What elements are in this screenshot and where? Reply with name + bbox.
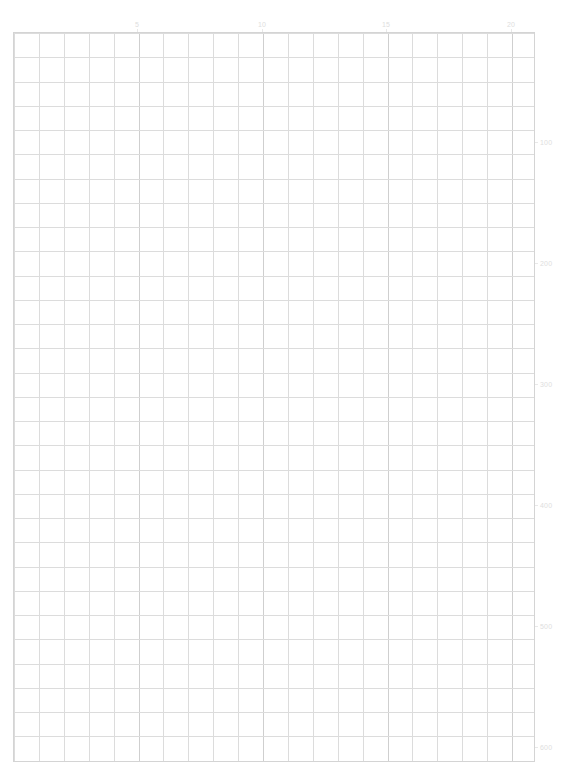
- x-axis-tick-mark: [137, 29, 138, 32]
- gridline-horizontal: [14, 57, 534, 58]
- gridline-horizontal: [14, 82, 534, 83]
- gridline-horizontal: [14, 421, 534, 422]
- y-axis-tick-label: 100: [540, 138, 552, 147]
- y-axis-tick-label: 600: [540, 743, 552, 752]
- gridline-horizontal: [14, 203, 534, 204]
- gridline-horizontal: [14, 494, 534, 495]
- gridline-horizontal: [14, 373, 534, 374]
- y-axis-tick-mark: [535, 747, 538, 748]
- gridline-horizontal: [14, 664, 534, 665]
- gridline-horizontal: [14, 130, 534, 131]
- gridline-horizontal: [14, 33, 534, 34]
- gridline-horizontal: [14, 397, 534, 398]
- y-axis-tick-label: 500: [540, 622, 552, 631]
- gridline-horizontal: [14, 227, 534, 228]
- gridline-horizontal: [14, 470, 534, 471]
- gridline-horizontal: [14, 518, 534, 519]
- gridline-horizontal: [14, 154, 534, 155]
- gridline-horizontal: [14, 445, 534, 446]
- y-axis-tick-label: 200: [540, 259, 552, 268]
- x-axis-tick-mark: [262, 29, 263, 32]
- gridline-horizontal: [14, 761, 534, 762]
- gridline-horizontal: [14, 639, 534, 640]
- gridline-horizontal: [14, 300, 534, 301]
- x-axis-tick-mark: [511, 29, 512, 32]
- gridline-horizontal: [14, 251, 534, 252]
- gridline-horizontal: [14, 106, 534, 107]
- plot-area: [13, 32, 535, 762]
- x-axis-tick-label: 20: [507, 20, 515, 29]
- gridline-horizontal: [14, 542, 534, 543]
- gridline-horizontal: [14, 179, 534, 180]
- gridline-horizontal: [14, 688, 534, 689]
- gridline-horizontal: [14, 615, 534, 616]
- y-axis-tick-mark: [535, 142, 538, 143]
- x-axis-tick-label: 5: [135, 20, 139, 29]
- y-axis-tick-mark: [535, 505, 538, 506]
- y-axis-tick-mark: [535, 384, 538, 385]
- gridline-horizontal: [14, 712, 534, 713]
- gridline-horizontal: [14, 567, 534, 568]
- gridline-horizontal: [14, 324, 534, 325]
- x-axis-tick-label: 15: [382, 20, 390, 29]
- y-axis-tick-label: 300: [540, 380, 552, 389]
- y-axis-tick-label: 400: [540, 501, 552, 510]
- gridline-horizontal: [14, 348, 534, 349]
- chart-root: 5101520100200300400500600: [0, 0, 567, 778]
- x-axis-tick-label: 10: [258, 20, 266, 29]
- y-axis-tick-mark: [535, 263, 538, 264]
- x-axis-tick-mark: [386, 29, 387, 32]
- gridline-horizontal: [14, 591, 534, 592]
- gridline-horizontal: [14, 736, 534, 737]
- gridline-horizontal: [14, 276, 534, 277]
- y-axis-tick-mark: [535, 626, 538, 627]
